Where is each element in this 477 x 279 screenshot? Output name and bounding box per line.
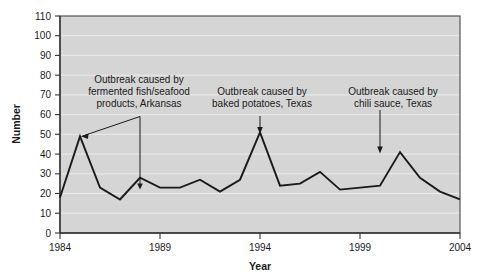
y-tick-label: 10 [40,208,52,219]
y-tick-label: 110 [35,11,51,22]
y-tick-label: 90 [40,50,52,61]
y-tick-label: 20 [40,188,52,199]
y-tick-label: 60 [40,109,52,120]
x-tick-label: 2004 [449,242,472,253]
y-tick-label: 50 [40,129,52,140]
y-tick-labels: 110 100 90 80 70 60 50 40 30 20 10 0 [34,11,51,239]
x-tick-labels: 1984 1989 1994 1999 2004 [49,242,472,253]
annotation-line: fermented fish/seafood [88,86,190,97]
x-tick-label: 1999 [349,242,372,253]
y-tick-label: 30 [40,168,52,179]
y-tick-label: 80 [40,70,52,81]
x-tick-label: 1989 [149,242,172,253]
x-tick-marks [60,233,460,239]
x-tick-label: 1994 [249,242,272,253]
y-tick-marks [55,16,60,233]
x-axis-title: Year [249,260,271,272]
annotation-baked-potatoes-text: Outbreak caused by baked potatoes, Texas [212,86,312,109]
annotation-line: Outbreak caused by [217,86,307,97]
annotation-line: Outbreak caused by [348,86,438,97]
annotation-line: products, Arkansas [96,98,181,109]
annotation-chili-sauce-text: Outbreak caused by chili sauce, Texas [348,86,438,109]
y-tick-label: 100 [34,30,51,41]
chart-figure: 110 100 90 80 70 60 50 40 30 20 10 0 198… [0,0,477,279]
annotation-line: baked potatoes, Texas [212,98,312,109]
annotation-line: Outbreak caused by [94,74,184,85]
y-tick-label: 40 [40,149,52,160]
y-axis-title: Number [10,104,22,144]
annotation-fermented-fish-text: Outbreak caused by fermented fish/seafoo… [88,74,190,109]
annotation-line: chili sauce, Texas [354,98,432,109]
y-tick-label: 70 [40,89,52,100]
y-tick-label: 0 [45,228,51,239]
line-chart: 110 100 90 80 70 60 50 40 30 20 10 0 198… [0,0,477,279]
x-tick-label: 1984 [49,242,72,253]
